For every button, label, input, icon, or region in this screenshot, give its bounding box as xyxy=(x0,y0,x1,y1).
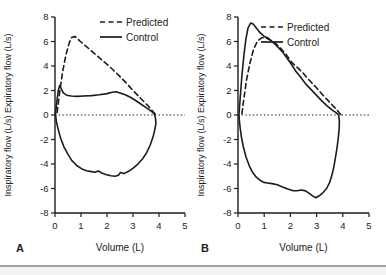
y-tick-label: -4 xyxy=(40,158,48,169)
flow-volume-chart-panel-a: -8-6-4-202468012345Volume (L)Inspiratory… xyxy=(0,0,193,262)
x-tick-label: 0 xyxy=(52,220,57,231)
x-axis-title: Volume (L) xyxy=(96,242,144,253)
y-tick-label: -6 xyxy=(223,183,231,194)
y-tick-label: -2 xyxy=(223,134,231,145)
x-tick-label: 0 xyxy=(235,220,240,231)
x-tick-label: 1 xyxy=(78,220,83,231)
flow-volume-chart-panel-b: -8-6-4-202468012345Volume (L)Inspiratory… xyxy=(193,0,386,262)
x-axis-title: Volume (L) xyxy=(279,242,327,253)
y-tick-label: -4 xyxy=(223,158,231,169)
y-tick-label: 8 xyxy=(43,11,48,22)
y-tick-label: -6 xyxy=(40,183,48,194)
x-tick-label: 4 xyxy=(156,220,161,231)
bottom-strip xyxy=(0,267,386,275)
y-tick-label: -8 xyxy=(40,207,48,218)
x-tick-label: 3 xyxy=(314,220,319,231)
x-tick-label: 5 xyxy=(366,220,371,231)
legend-label-predicted: Predicted xyxy=(287,22,329,33)
panel-letter: A xyxy=(16,242,24,254)
y-tick-label: -8 xyxy=(223,207,231,218)
x-tick-label: 5 xyxy=(182,220,187,231)
y-tick-label: 4 xyxy=(226,60,231,71)
x-tick-label: 2 xyxy=(288,220,293,231)
y-tick-label: 6 xyxy=(226,36,231,47)
panel-letter: B xyxy=(201,242,209,254)
legend-label-predicted: Predicted xyxy=(126,17,168,28)
y-tick-label: 0 xyxy=(226,109,231,120)
x-tick-label: 4 xyxy=(340,220,345,231)
y-axis-title: Inspiratory flow (L/s) Expiratory flow (… xyxy=(196,33,206,196)
y-tick-label: 4 xyxy=(43,60,48,71)
y-tick-label: 2 xyxy=(43,85,48,96)
y-tick-label: 0 xyxy=(43,109,48,120)
series-control-curve xyxy=(239,23,339,198)
x-tick-label: 3 xyxy=(130,220,135,231)
x-tick-label: 2 xyxy=(104,220,109,231)
y-tick-label: -2 xyxy=(40,134,48,145)
flow-volume-figure: -8-6-4-202468012345Volume (L)Inspiratory… xyxy=(0,0,386,275)
x-tick-label: 1 xyxy=(262,220,267,231)
y-tick-label: 6 xyxy=(43,36,48,47)
y-axis-title: Inspiratory flow (L/s) Expiratory flow (… xyxy=(3,33,13,196)
y-tick-label: 2 xyxy=(226,85,231,96)
y-tick-label: 8 xyxy=(226,11,231,22)
legend-label-control: Control xyxy=(126,32,158,43)
legend-label-control: Control xyxy=(287,37,319,48)
series-predicted-curve xyxy=(242,38,341,115)
